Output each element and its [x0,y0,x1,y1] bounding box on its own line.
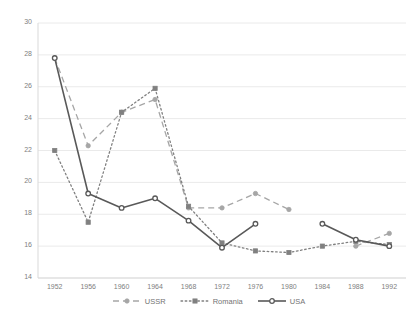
data-point-marker-ussr [354,244,358,248]
x-axis-tick-label: 1972 [205,283,239,290]
gridlines [38,23,406,278]
data-point-marker-romania [287,250,291,254]
legend-label-ussr: USSR [145,297,166,306]
chart-plot-area [0,0,417,327]
data-point-marker-ussr [86,144,90,148]
data-point-marker-romania [153,86,157,90]
legend-key-usa [257,296,287,306]
data-point-marker-ussr [153,97,157,101]
data-point-marker-usa [253,222,258,227]
legend-entry-romania[interactable]: Romania [180,296,243,306]
data-point-marker-romania [120,110,124,114]
x-axis-tick-label: 1968 [172,283,206,290]
data-point-marker-usa [52,56,57,61]
y-axis-tick-label: 18 [14,209,32,216]
data-point-marker-usa [387,244,392,249]
x-axis-tick-label: 1984 [305,283,339,290]
data-point-marker-usa [86,191,91,196]
legend-label-usa: USA [290,297,305,306]
series-line-ussr [55,58,289,209]
data-point-marker-ussr [287,207,291,211]
x-axis-tick-label: 1992 [372,283,406,290]
y-axis-tick-label: 14 [14,273,32,280]
series-line-romania [55,88,390,252]
legend-entry-ussr[interactable]: USSR [112,296,166,306]
data-point-marker-usa [186,218,191,223]
data-point-marker-usa [320,222,325,227]
data-point-marker-romania [320,244,324,248]
x-axis-tick-label: 1976 [238,283,272,290]
legend-entry-usa[interactable]: USA [257,296,305,306]
data-point-marker-ussr [253,191,257,195]
legend-key-romania [180,296,210,306]
chart-container: 141618202224262830 195219561960196419681… [0,0,417,327]
data-point-marker-romania [253,249,257,253]
data-point-marker-usa [220,245,225,250]
y-axis-tick-label: 26 [14,82,32,89]
y-axis-tick-label: 28 [14,50,32,57]
x-axis-tick-label: 1956 [71,283,105,290]
x-axis-tick-label: 1964 [138,283,172,290]
x-axis-tick-label: 1980 [272,283,306,290]
data-point-marker-usa [354,237,359,242]
y-axis-tick-label: 20 [14,177,32,184]
data-point-marker-ussr [220,206,224,210]
data-point-marker-romania [53,148,57,152]
legend-label-romania: Romania [213,297,243,306]
data-point-marker-romania [86,220,90,224]
x-axis-tick-label: 1952 [38,283,72,290]
data-point-marker-romania [220,241,224,245]
legend-key-ussr [112,296,142,306]
series-layer [52,56,391,255]
data-point-marker-usa [119,206,124,211]
x-axis-tick-label: 1960 [105,283,139,290]
y-axis-tick-label: 16 [14,241,32,248]
y-axis-tick-label: 22 [14,146,32,153]
x-axis-tick-label: 1988 [339,283,373,290]
data-point-marker-romania [186,204,190,208]
y-axis-tick-label: 24 [14,114,32,121]
y-axis-tick-label: 30 [14,18,32,25]
data-point-marker-ussr [387,231,391,235]
data-point-marker-usa [153,196,158,201]
chart-legend: USSRRomaniaUSA [0,296,417,306]
